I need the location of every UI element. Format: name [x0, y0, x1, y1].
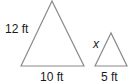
similar-triangles-diagram: 12 ft 10 ft x 5 ft: [0, 0, 130, 83]
small-triangle-side-label: x: [92, 37, 100, 51]
large-triangle-side-label: 12 ft: [5, 22, 29, 36]
large-triangle-base-label: 10 ft: [40, 70, 64, 83]
small-triangle-base-label: 5 ft: [101, 70, 118, 83]
large-triangle: [21, 1, 84, 66]
small-triangle: [95, 33, 127, 66]
